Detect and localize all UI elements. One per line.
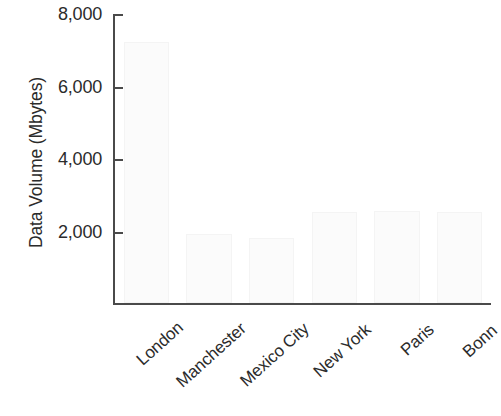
plot-area [113,14,491,304]
x-category-label: Bonn [459,321,501,362]
x-axis-category-labels: LondonManchesterMexico CityNew YorkParis… [113,304,493,416]
x-category-label: Paris [397,320,438,360]
x-category-label: London [133,318,188,370]
y-tick-label-4000: 4,000 [30,150,102,168]
bar [186,234,231,303]
bar-series [115,14,491,304]
y-tick-label-6000: 6,000 [30,78,102,96]
bar [437,212,482,303]
y-tick-label-8000: 8,000 [30,5,102,23]
y-tick-label-2000: 2,000 [30,223,102,241]
bar [249,238,294,303]
bar [124,42,169,303]
bar [374,211,419,303]
y-axis-tick-labels: 8,000 6,000 4,000 2,000 [28,0,102,330]
x-category-label: New York [310,320,376,382]
bar [312,212,357,303]
